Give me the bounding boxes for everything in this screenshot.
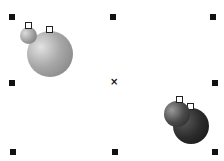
handle-bottom-middle[interactable] [112,149,118,155]
small-light-ornament-cap [25,22,32,29]
handle-top-middle[interactable] [110,14,116,20]
handle-bottom-right[interactable] [212,149,218,155]
handle-bottom-left[interactable] [10,149,16,155]
handle-middle-left[interactable] [9,80,15,86]
small-dark-ornament-cap [176,96,183,103]
small-light-ornament[interactable] [20,27,37,44]
handle-top-left[interactable] [9,14,15,20]
rotation-center-marker[interactable]: × [110,77,118,87]
canvas[interactable]: × [0,0,224,161]
handle-middle-right[interactable] [212,80,218,86]
small-dark-ornament[interactable] [164,101,190,127]
handle-top-right[interactable] [210,14,216,20]
large-light-ornament-cap [46,26,53,33]
